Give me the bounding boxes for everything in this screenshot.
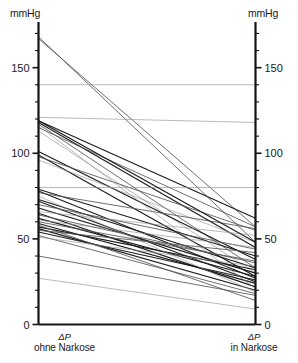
caption-left-text: ohne Narkose — [12, 342, 117, 353]
slope-line — [39, 223, 256, 283]
slope-line-group — [39, 37, 256, 309]
y-axis-tick-label: 150 — [265, 62, 283, 74]
y-axis-tick-label: 150 — [11, 62, 29, 74]
y-axis-tick-label: 50 — [17, 233, 29, 245]
y-axis-tick-label: 100 — [11, 147, 29, 159]
y-axis-tick-label: 50 — [265, 233, 277, 245]
figure-paired-slope-chart: mmHg mmHg 005050100100150150 ΔP ohne Nar… — [0, 0, 298, 363]
slope-line — [39, 157, 256, 231]
x-axis-caption-right: ΔP in Narkose — [212, 331, 296, 353]
slope-line — [39, 117, 256, 122]
x-axis-caption-left: ΔP ohne Narkose — [12, 331, 117, 353]
y-axis-unit-label-left: mmHg — [10, 7, 40, 19]
y-axis-tick-label: 0 — [23, 319, 29, 331]
caption-left-symbol: ΔP — [12, 331, 117, 342]
slope-line — [39, 160, 256, 242]
slope-line — [39, 229, 256, 291]
y-axis-unit-label-right: mmHg — [248, 7, 278, 19]
slope-line — [39, 189, 256, 256]
y-axis-tick-label: 0 — [265, 319, 271, 331]
slope-line — [39, 128, 256, 227]
slope-line — [39, 278, 256, 309]
plot-area: 005050100100150150 — [0, 0, 298, 363]
slope-line — [39, 122, 256, 247]
y-axis-tick-label: 100 — [265, 147, 283, 159]
caption-right-text: in Narkose — [212, 342, 296, 353]
caption-right-symbol: ΔP — [212, 331, 296, 342]
